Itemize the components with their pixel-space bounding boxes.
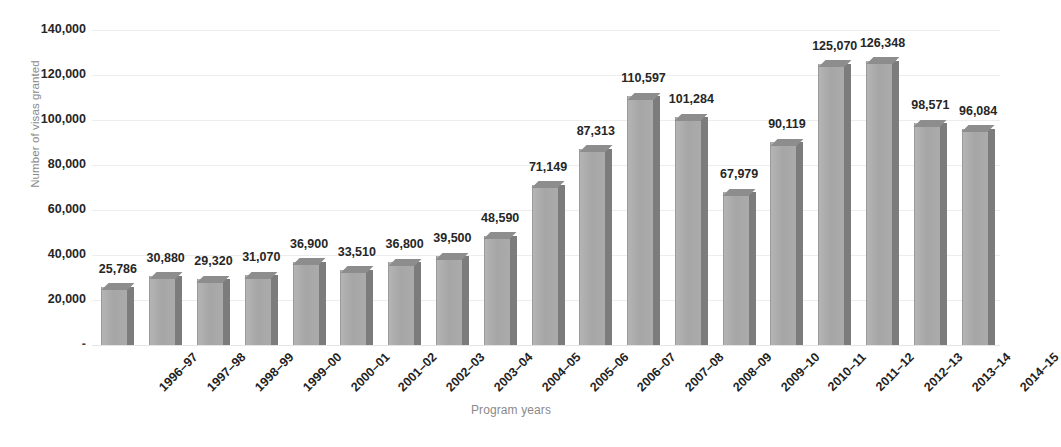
bar-side-face: [127, 287, 134, 345]
x-axis-tick-label: 1998–99: [252, 350, 296, 394]
x-axis-tick-label: 2013–14: [969, 350, 1013, 394]
gridline: [92, 75, 1000, 76]
bar-front-face: [436, 256, 463, 345]
bar-value-label: 101,284: [669, 92, 714, 106]
bar-front-face: [627, 96, 654, 345]
x-axis-tick-label: 1999–00: [300, 350, 344, 394]
bar-front-face: [818, 64, 845, 345]
x-axis-tick-label: 2002–03: [443, 350, 487, 394]
bar-side-face: [844, 64, 851, 345]
bar-front-face: [675, 117, 702, 345]
bar-side-face: [271, 275, 278, 345]
bar-value-label: 125,070: [812, 39, 857, 53]
y-axis-tick-label: 60,000: [0, 202, 86, 216]
bar-2004–05[interactable]: [484, 236, 510, 345]
bar-side-face: [701, 117, 708, 345]
bar-2012–13[interactable]: [866, 61, 892, 345]
plot-area: 25,78630,88029,32031,07036,90033,51036,8…: [92, 30, 1000, 345]
x-axis-tick-label: 2005–06: [587, 350, 631, 394]
bar-value-label: 36,800: [386, 237, 424, 251]
bar-2013–14[interactable]: [914, 123, 940, 345]
bar-2011–12[interactable]: [818, 64, 844, 345]
x-axis-tick-label: 2008–09: [730, 350, 774, 394]
bar-value-label: 87,313: [577, 124, 615, 138]
bar-front-face: [149, 276, 176, 345]
bar-side-face: [175, 276, 182, 345]
x-axis-tick-label: 2000–01: [348, 350, 392, 394]
bar-front-face: [484, 236, 511, 345]
x-axis-tick-label: 2014–15: [1017, 350, 1061, 394]
bar-1999–00[interactable]: [245, 275, 271, 345]
x-axis-tick-label: 2007–08: [682, 350, 726, 394]
bar-value-label: 90,119: [768, 117, 806, 131]
x-axis-tick-label: 2006–07: [635, 350, 679, 394]
bar-side-face: [462, 256, 469, 345]
bar-front-face: [962, 129, 989, 345]
bar-side-face: [653, 96, 660, 345]
bar-value-label: 71,149: [529, 160, 567, 174]
bar-value-label: 98,571: [911, 98, 949, 112]
gridline: [92, 345, 1000, 346]
bar-2002–03[interactable]: [388, 262, 414, 345]
x-axis-tick-label: 2010–11: [825, 350, 869, 394]
bar-value-label: 33,510: [338, 245, 376, 259]
bar-side-face: [414, 262, 421, 345]
bar-2009–10[interactable]: [723, 192, 749, 345]
y-axis-tick-label: 40,000: [0, 247, 86, 261]
bar-side-face: [319, 262, 326, 345]
gridline: [92, 30, 1000, 31]
bar-side-face: [749, 192, 756, 345]
x-axis-tick-label: 2004–05: [539, 350, 583, 394]
bar-front-face: [101, 287, 128, 345]
x-axis-tick-label: 2011–12: [873, 350, 917, 394]
bar-side-face: [558, 185, 565, 345]
bar-2010–11[interactable]: [770, 142, 796, 345]
y-axis-tick-label: -: [0, 337, 86, 351]
bar-front-face: [197, 279, 224, 345]
y-axis-tick-label: 120,000: [0, 67, 86, 81]
bar-front-face: [532, 185, 559, 345]
bar-value-label: 96,084: [959, 104, 997, 118]
y-axis-tick-label: 140,000: [0, 22, 86, 36]
bar-2005–06[interactable]: [532, 185, 558, 345]
gridline: [92, 120, 1000, 121]
bar-value-label: 31,070: [242, 250, 280, 264]
x-axis-tick-label: 2012–13: [921, 350, 965, 394]
bar-1997–98[interactable]: [149, 276, 175, 345]
bar-value-label: 30,880: [147, 251, 185, 265]
bar-side-face: [223, 279, 230, 345]
bar-side-face: [510, 236, 517, 345]
y-axis-tick-label: 20,000: [0, 292, 86, 306]
bar-front-face: [723, 192, 750, 345]
bar-front-face: [914, 123, 941, 345]
bar-2000–01[interactable]: [293, 262, 319, 345]
bar-2001–02[interactable]: [340, 270, 366, 345]
x-axis-tick-label: 1997–98: [204, 350, 248, 394]
bar-side-face: [366, 270, 373, 345]
bar-value-label: 67,979: [720, 167, 758, 181]
bar-value-label: 36,900: [290, 237, 328, 251]
bar-value-label: 48,590: [481, 211, 519, 225]
bar-2008–09[interactable]: [675, 117, 701, 345]
bar-front-face: [770, 142, 797, 345]
bar-side-face: [988, 129, 995, 345]
bar-front-face: [388, 262, 415, 345]
bar-2014–15[interactable]: [962, 129, 988, 345]
x-axis-tick-label: 2009–10: [778, 350, 822, 394]
bar-front-face: [579, 149, 606, 345]
bar-2003–04[interactable]: [436, 256, 462, 345]
bar-value-label: 110,597: [621, 71, 666, 85]
bar-side-face: [940, 123, 947, 345]
y-axis-tick-label: 100,000: [0, 112, 86, 126]
bar-value-label: 126,348: [860, 36, 905, 50]
bar-side-face: [605, 149, 612, 345]
x-axis-title: Program years: [0, 403, 1022, 417]
bar-2006–07[interactable]: [579, 149, 605, 345]
bar-1998–99[interactable]: [197, 279, 223, 345]
bar-front-face: [245, 275, 272, 345]
x-axis-tick-label: 1996–97: [157, 350, 201, 394]
bar-value-label: 39,500: [433, 231, 471, 245]
bar-2007–08[interactable]: [627, 96, 653, 345]
bar-1996–97[interactable]: [101, 287, 127, 345]
